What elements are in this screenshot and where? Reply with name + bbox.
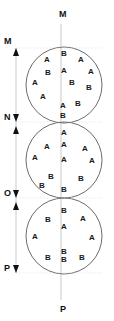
arrowhead-n-down	[13, 114, 19, 122]
marker-label-n: N	[4, 113, 11, 122]
arrowhead-m-up	[13, 48, 19, 56]
particle-b: B	[69, 79, 75, 87]
particle-a: A	[88, 68, 94, 76]
diagram-vector-layer	[0, 0, 114, 321]
particle-a: A	[61, 156, 67, 164]
particle-b: B	[61, 186, 67, 194]
particle-b: B	[45, 69, 51, 77]
particle-b: B	[86, 84, 92, 92]
particle-a: A	[61, 223, 67, 231]
axis-label-bottom: P	[60, 305, 66, 314]
particle-a: A	[32, 154, 38, 162]
particle-b: B	[61, 207, 67, 215]
particle-b: B	[48, 173, 54, 181]
arrowhead-p-down	[13, 265, 19, 273]
particle-a: A	[60, 102, 66, 110]
particle-a: A	[78, 56, 84, 64]
marker-label-o: O	[4, 189, 11, 198]
particle-a: A	[61, 67, 67, 75]
particle-a: A	[44, 56, 50, 64]
diagram-canvas: M P M N O P BAAABAABBABAB AAAAAAABBBB BB…	[0, 0, 114, 321]
particle-a: A	[44, 143, 50, 151]
particle-a: A	[82, 145, 88, 153]
marker-label-m: M	[4, 37, 12, 46]
particle-b: B	[78, 175, 84, 183]
particle-b: B	[61, 256, 67, 264]
particle-a: A	[32, 79, 38, 87]
marker-label-p: P	[4, 264, 10, 273]
arrowhead-n-up	[13, 126, 19, 134]
particle-a: A	[89, 234, 95, 242]
particle-a: A	[61, 129, 67, 137]
particle-b: B	[60, 112, 66, 120]
arrowhead-o-down	[13, 190, 19, 198]
particle-a: A	[40, 93, 46, 101]
particle-b: B	[45, 216, 51, 224]
particle-b: B	[39, 182, 45, 190]
particle-b: B	[75, 100, 81, 108]
particle-a: A	[80, 215, 86, 223]
particle-a: A	[32, 233, 38, 241]
particle-b: B	[79, 254, 85, 262]
arrowhead-o-up	[13, 202, 19, 210]
particle-b: B	[61, 50, 67, 58]
particle-a: A	[61, 141, 67, 149]
particle-a: A	[89, 157, 95, 165]
particle-b: B	[45, 254, 51, 262]
axis-label-top: M	[59, 10, 67, 19]
